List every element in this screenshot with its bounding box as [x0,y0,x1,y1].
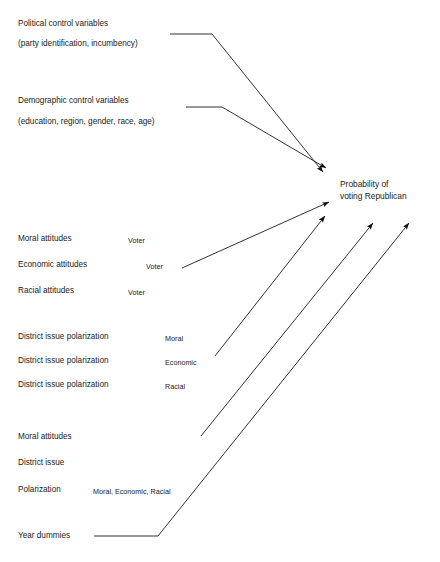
node-label-district-issue-polarization: District issue polarization [18,381,109,390]
node-label-voter-attitudes: Racial attitudes [18,287,74,296]
target-node-label: Probability of voting Republican [340,178,407,202]
node-sublabel-district-issue-polarization: Moral [165,335,183,343]
arrow-district-issue-polarization [215,216,325,356]
node-label-voter-attitudes: Moral attitudes [18,235,72,244]
node-label-moral-district-polarization: Polarization [18,486,61,495]
node-sublabel-voter-attitudes: Voter [128,237,145,245]
arrow-political-controls [170,34,323,172]
path-diagram-canvas: Political control variables(party identi… [0,0,440,562]
node-sublabel-voter-attitudes: Voter [146,263,163,271]
node-label-demographic-controls: Demographic control variables [18,97,129,106]
node-label-moral-district-polarization: Moral attitudes [18,433,72,442]
arrow-layer [0,0,440,562]
arrow-demographic-controls [186,107,326,168]
node-label-demographic-controls: (education, region, gender, race, age) [18,118,155,127]
node-label-political-controls: (party identification, incumbency) [18,40,138,49]
node-label-voter-attitudes: Economic attitudes [18,261,87,270]
node-label-district-issue-polarization: District issue polarization [18,357,109,366]
node-sublabel-district-issue-polarization: Economic [165,359,197,367]
node-sublabel-voter-attitudes: Voter [128,289,145,297]
arrow-voter-attitudes [182,202,329,268]
node-label-district-issue-polarization: District issue polarization [18,333,109,342]
node-sublabel-moral-district-polarization: Moral, Economic, Racial [93,488,171,496]
node-label-political-controls: Political control variables [18,20,108,29]
node-sublabel-district-issue-polarization: Racial [165,383,185,391]
arrow-moral-district-polarization [201,223,373,436]
node-label-year-dummies: Year dummies [18,532,70,541]
node-label-moral-district-polarization: District issue [18,459,64,468]
